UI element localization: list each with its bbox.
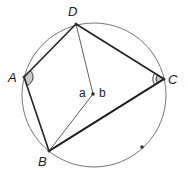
- label-d: D: [68, 5, 77, 18]
- vertex-d-point: [75, 23, 78, 26]
- quadrilateral-adcb: [24, 24, 164, 151]
- angle-mark-c-outer-arc: [153, 73, 155, 85]
- vertex-b-point: [48, 150, 51, 153]
- label-c: C: [168, 73, 177, 86]
- vertex-a-point: [23, 76, 26, 79]
- vertex-c-point: [163, 78, 166, 81]
- radius-d-to-center: [76, 24, 93, 94]
- diagram-svg: [0, 0, 188, 179]
- angle-label-a: a: [79, 87, 86, 99]
- label-a: A: [8, 71, 17, 84]
- label-b: B: [38, 155, 47, 168]
- center-point: [91, 92, 95, 96]
- angle-label-b: b: [99, 87, 106, 99]
- diagonal-bc: [49, 79, 164, 151]
- radius-center-to-b: [49, 94, 93, 151]
- point-on-circle: [140, 145, 144, 149]
- cyclic-quadrilateral-diagram: D A C B a b: [0, 0, 188, 179]
